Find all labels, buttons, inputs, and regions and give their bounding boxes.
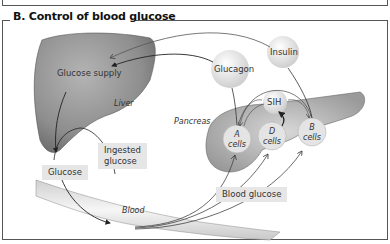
b-cells-letter: B	[300, 123, 324, 133]
ingested-glucose-line1: Ingested	[104, 145, 141, 156]
blood-label: Blood	[122, 206, 145, 215]
liver-label: Liver	[114, 99, 134, 108]
b-cells-word: cells	[300, 133, 324, 143]
glucose-supply-label: Glucose supply	[57, 68, 122, 78]
a-cells-letter: A	[225, 130, 249, 140]
insulin-label: Insulin	[270, 47, 298, 57]
a-cells-label: A cells	[225, 130, 249, 150]
sih-label: SIH	[267, 97, 281, 107]
d-cells-letter: D	[260, 127, 284, 137]
b-cells-label: B cells	[300, 123, 324, 143]
glucose-box: Glucose	[42, 165, 88, 180]
d-cells-label: D cells	[260, 127, 284, 147]
a-cells-word: cells	[225, 140, 249, 150]
d-cells-word: cells	[260, 137, 284, 147]
ingested-glucose-line2: glucose	[104, 156, 141, 167]
glucagon-label: Glucagon	[214, 64, 254, 74]
ingested-glucose-box: Ingested glucose	[98, 143, 147, 169]
pancreas-label: Pancreas	[174, 117, 210, 126]
blood-glucose-box: Blood glucose	[216, 187, 287, 202]
